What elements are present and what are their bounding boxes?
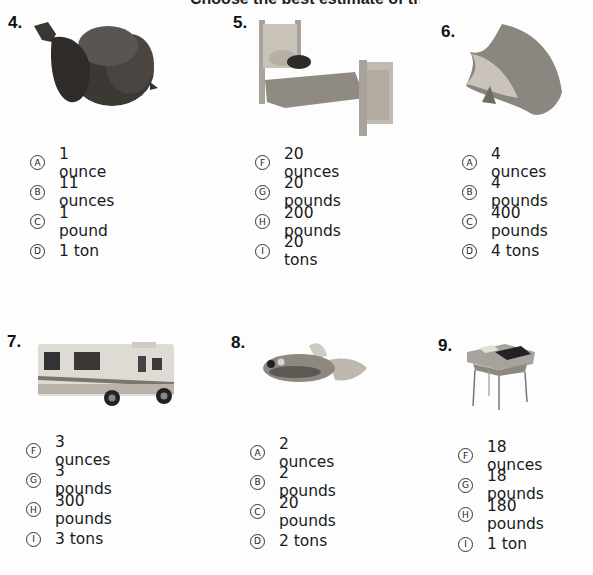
- choice-bubble[interactable]: F: [26, 443, 41, 458]
- answer-option[interactable]: D1 ton: [30, 237, 114, 267]
- choice-bubble[interactable]: C: [250, 504, 265, 519]
- choice-bubble[interactable]: B: [30, 185, 45, 200]
- choice-bubble[interactable]: A: [462, 155, 477, 170]
- answer-option[interactable]: F3 ounces: [26, 436, 112, 466]
- choice-bubble[interactable]: D: [30, 244, 45, 259]
- answer-option[interactable]: C1 pound: [30, 207, 114, 237]
- choice-bubble[interactable]: B: [250, 475, 265, 490]
- choice-bubble[interactable]: D: [250, 534, 265, 549]
- choice-bubble[interactable]: H: [26, 502, 41, 517]
- answer-option[interactable]: I3 tons: [26, 525, 112, 555]
- answer-option[interactable]: B11 ounces: [30, 178, 114, 208]
- choice-bubble[interactable]: D: [462, 244, 477, 259]
- answer-option[interactable]: A4 ounces: [462, 148, 548, 178]
- problem-number: 5.: [233, 13, 247, 33]
- answer-choices: F20 ounces G20 pounds H200 pounds I20 to…: [255, 148, 341, 266]
- school-desk-image: [465, 340, 540, 410]
- option-text: 3 tons: [55, 530, 103, 548]
- choice-bubble[interactable]: A: [30, 155, 45, 170]
- problem-number: 6.: [441, 22, 455, 42]
- answer-option[interactable]: H300 pounds: [26, 495, 112, 525]
- answer-option[interactable]: B4 pounds: [462, 178, 548, 208]
- choice-bubble[interactable]: I: [458, 537, 473, 552]
- problem-number: 4.: [8, 13, 22, 33]
- choice-bubble[interactable]: F: [255, 155, 270, 170]
- choice-bubble[interactable]: G: [458, 478, 473, 493]
- choice-bubble[interactable]: C: [30, 214, 45, 229]
- choice-bubble[interactable]: G: [26, 473, 41, 488]
- option-text: 180 pounds: [487, 497, 544, 533]
- choice-bubble[interactable]: G: [255, 185, 270, 200]
- choice-bubble[interactable]: H: [458, 507, 473, 522]
- choice-bubble[interactable]: I: [255, 244, 270, 259]
- option-text: 300 pounds: [55, 492, 112, 528]
- answer-option[interactable]: I20 tons: [255, 237, 341, 267]
- answer-choices: F3 ounces G3 pounds H300 pounds I3 tons: [26, 436, 112, 554]
- choice-bubble[interactable]: B: [462, 185, 477, 200]
- answer-option[interactable]: F18 ounces: [458, 441, 544, 471]
- option-text: 1 ton: [487, 535, 527, 553]
- answer-option[interactable]: A2 ounces: [250, 438, 336, 468]
- answer-choices: F18 ounces G18 pounds H180 pounds I1 ton: [458, 441, 544, 559]
- answer-option[interactable]: G3 pounds: [26, 466, 112, 496]
- option-text: 2 tons: [279, 532, 327, 550]
- problem-number: 9.: [438, 336, 452, 356]
- answer-choices: A4 ounces B4 pounds C400 pounds D4 tons: [462, 148, 548, 266]
- answer-option[interactable]: H200 pounds: [255, 207, 341, 237]
- answer-option[interactable]: D4 tons: [462, 237, 548, 267]
- option-text: 4 tons: [491, 242, 539, 260]
- answer-choices: A2 ounces B2 pounds C20 pounds D2 tons: [250, 438, 336, 556]
- answer-option[interactable]: G20 pounds: [255, 178, 341, 208]
- option-text: 400 pounds: [491, 204, 548, 240]
- seashell-image: [462, 22, 567, 122]
- answer-option[interactable]: I1 ton: [458, 530, 544, 560]
- option-text: 1 pound: [59, 204, 114, 240]
- acorn-image: [30, 18, 160, 108]
- motorhome-image: [32, 340, 182, 408]
- answer-option[interactable]: A1 ounce: [30, 148, 114, 178]
- choice-bubble[interactable]: C: [462, 214, 477, 229]
- choice-bubble[interactable]: I: [26, 532, 41, 547]
- answer-option[interactable]: D2 tons: [250, 527, 336, 557]
- option-text: 20 pounds: [279, 494, 336, 530]
- answer-option[interactable]: G18 pounds: [458, 471, 544, 501]
- answer-option[interactable]: F20 ounces: [255, 148, 341, 178]
- goldfish-image: [255, 338, 370, 398]
- bed-image: [255, 18, 395, 138]
- answer-option[interactable]: B2 pounds: [250, 468, 336, 498]
- option-text: 1 ton: [59, 242, 99, 260]
- option-text: 20 tons: [284, 233, 341, 269]
- choice-bubble[interactable]: F: [458, 448, 473, 463]
- problem-number: 7.: [7, 332, 21, 352]
- answer-option[interactable]: C400 pounds: [462, 207, 548, 237]
- answer-choices: A1 ounce B11 ounces C1 pound D1 ton: [30, 148, 114, 266]
- answer-option[interactable]: C20 pounds: [250, 497, 336, 527]
- answer-option[interactable]: H180 pounds: [458, 500, 544, 530]
- page-heading-cutoff: Choose the best estimate of the weight o…: [190, 0, 420, 4]
- choice-bubble[interactable]: H: [255, 214, 270, 229]
- problem-number: 8.: [231, 333, 245, 353]
- choice-bubble[interactable]: A: [250, 445, 265, 460]
